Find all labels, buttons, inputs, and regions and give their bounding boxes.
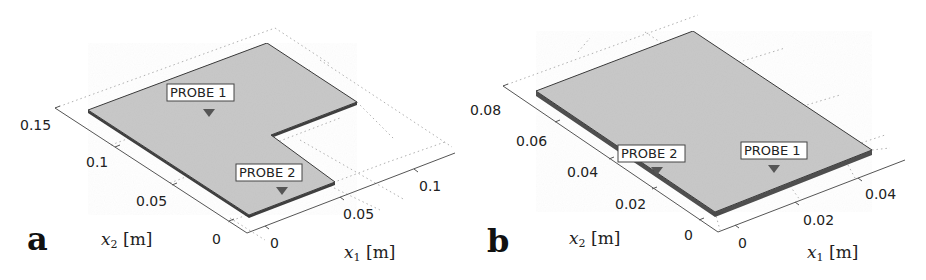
panel-b: 0.08 0.06 0.04 0.02 0 0 0.02 0.04 x2 [m]… xyxy=(470,15,905,264)
figure-canvas: 0.15 0.1 0.05 0 0 0.05 0.1 x2 [m] x1 [m]… xyxy=(0,0,926,280)
panel-a-x1-tick: 0.1 xyxy=(419,178,441,194)
panel-a-x2-tick: 0.05 xyxy=(136,193,167,209)
panel-b-x2-tick: 0.04 xyxy=(567,164,598,180)
panel-b-x1-tick: 0.02 xyxy=(803,212,834,228)
panel-b-letter: b xyxy=(487,222,509,260)
panel-a-x2-tick: 0.15 xyxy=(20,117,51,133)
panel-a-x2-label: x2 [m] xyxy=(101,229,152,251)
panel-b-x2-tick: 0.08 xyxy=(470,102,501,118)
svg-text:PROBE 1: PROBE 1 xyxy=(170,85,227,100)
svg-text:PROBE 1: PROBE 1 xyxy=(744,143,801,158)
svg-text:PROBE 2: PROBE 2 xyxy=(239,165,296,180)
panel-a: 0.15 0.1 0.05 0 0 0.05 0.1 x2 [m] x1 [m]… xyxy=(20,28,455,264)
panel-a-x2-tick: 0.1 xyxy=(86,154,108,170)
panel-b-x1-tick: 0.04 xyxy=(865,186,896,202)
svg-text:PROBE 2: PROBE 2 xyxy=(621,146,678,161)
l-plate xyxy=(88,43,357,215)
panel-a-letter: a xyxy=(27,220,48,258)
panel-b-x2-tick: 0.02 xyxy=(615,196,646,212)
panel-a-x2-tick: 0 xyxy=(212,231,221,247)
panel-a-x1-label: x1 [m] xyxy=(344,242,395,264)
panel-b-x2-label: x2 [m] xyxy=(569,228,620,250)
panel-a-x1-tick: 0.05 xyxy=(343,206,374,222)
panel-b-x1-label: x1 [m] xyxy=(807,242,858,264)
panel-b-x2-tick: 0.06 xyxy=(516,133,547,149)
rect-plate xyxy=(536,31,872,212)
panel-a-x1-tick: 0 xyxy=(270,235,279,251)
panel-b-x2-tick: 0 xyxy=(684,227,693,243)
panel-b-x1-tick: 0 xyxy=(738,235,747,251)
